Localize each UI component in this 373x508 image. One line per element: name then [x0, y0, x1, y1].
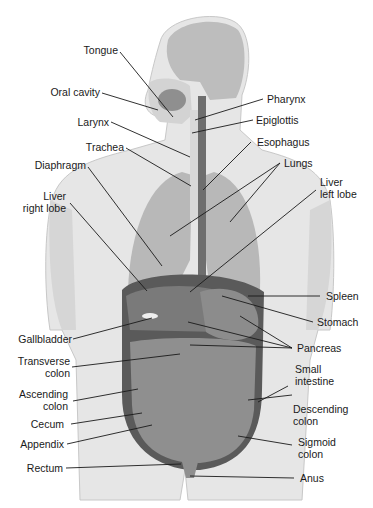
label-descending-colon: Descending colon [293, 403, 348, 427]
label-liver-right-lobe-line1: Liver [10, 190, 66, 202]
label-transverse-colon-line1: Transverse [0, 355, 70, 367]
label-liver-right-lobe-line2: right lobe [10, 202, 66, 214]
label-trachea: Trachea [60, 141, 124, 153]
label-ascending-colon: Ascending colon [0, 388, 68, 412]
label-diaphragm: Diaphragm [20, 159, 86, 171]
label-rectum: Rectum [0, 462, 63, 474]
label-small-intestine: Small intestine [295, 363, 334, 387]
label-sigmoid-colon-line1: Sigmoid [298, 436, 336, 448]
label-tongue: Tongue [68, 44, 118, 56]
label-sigmoid-colon: Sigmoid colon [298, 436, 336, 460]
label-oral-cavity: Oral cavity [30, 86, 100, 98]
label-appendix: Appendix [0, 438, 64, 450]
label-anus: Anus [300, 472, 324, 484]
label-cecum: Cecum [0, 418, 64, 430]
label-transverse-colon-line2: colon [0, 367, 70, 379]
label-esophagus: Esophagus [257, 136, 310, 148]
label-descending-colon-line2: colon [293, 415, 348, 427]
intestine-shape [130, 338, 256, 463]
label-ascending-colon-line1: Ascending [0, 388, 68, 400]
label-liver-left-lobe-line1: Liver [320, 176, 357, 188]
label-liver-right-lobe: Liver right lobe [10, 190, 66, 214]
label-stomach: Stomach [317, 316, 358, 328]
label-sigmoid-colon-line2: colon [298, 448, 336, 460]
label-liver-left-lobe: Liver left lobe [320, 176, 357, 200]
label-liver-left-lobe-line2: left lobe [320, 188, 357, 200]
label-epiglottis: Epiglottis [256, 114, 299, 126]
label-ascending-colon-line2: colon [0, 400, 68, 412]
label-transverse-colon: Transverse colon [0, 355, 70, 379]
label-pancreas: Pancreas [297, 342, 341, 354]
label-larynx: Larynx [50, 116, 109, 128]
label-descending-colon-line1: Descending [293, 403, 348, 415]
label-small-intestine-line2: intestine [295, 375, 334, 387]
label-spleen: Spleen [326, 290, 359, 302]
label-gallbladder: Gallbladder [0, 333, 72, 345]
anatomy-illustration [0, 0, 373, 508]
label-lungs: Lungs [284, 157, 313, 169]
digestive-system-diagram: Tongue Oral cavity Larynx Trachea Diaphr… [0, 0, 373, 508]
label-pharynx: Pharynx [267, 93, 306, 105]
esophagus-shape [198, 96, 206, 291]
label-small-intestine-line1: Small [295, 363, 334, 375]
